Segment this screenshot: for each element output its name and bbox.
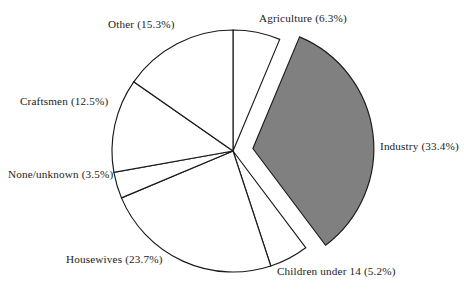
- pie-label-craftsmen: Craftsmen (12.5%): [20, 95, 108, 107]
- pie-label-housewives: Housewives (23.7%): [66, 253, 163, 265]
- pie-label-other: Other (15.3%): [108, 18, 175, 30]
- pie-label-agriculture: Agriculture (6.3%): [259, 12, 347, 24]
- pie-label-industry: Industry (33.4%): [380, 140, 459, 152]
- pie-chart: Other (15.3%) Agriculture (6.3%) Industr…: [0, 0, 464, 290]
- pie-slices-group: [112, 30, 374, 272]
- pie-label-children-under-14: Children under 14 (5.2%): [277, 265, 396, 277]
- pie-label-none-unknown: None/unknown (3.5%): [8, 168, 113, 180]
